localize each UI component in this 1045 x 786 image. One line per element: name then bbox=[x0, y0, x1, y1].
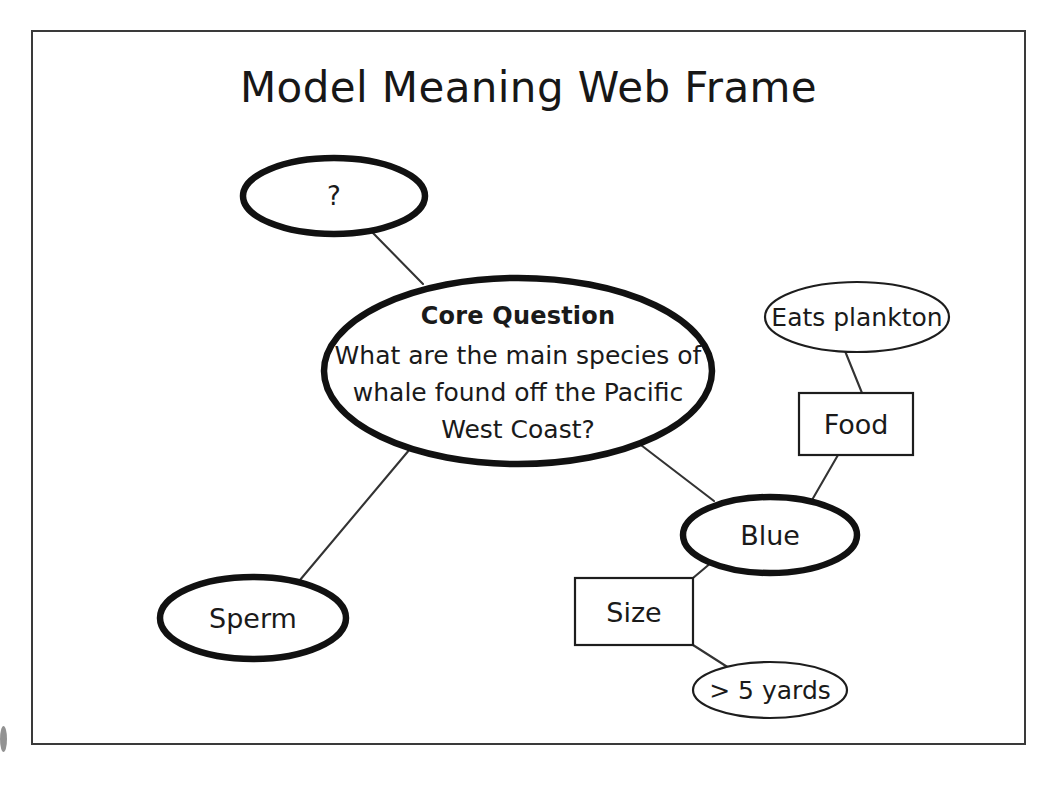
node-food[interactable]: Food bbox=[799, 393, 913, 455]
core-question-line-2: whale found off the Pacific bbox=[353, 378, 683, 407]
edge-core-question-to-blue bbox=[637, 442, 714, 501]
node-size[interactable]: Size bbox=[575, 578, 693, 645]
node-five-yards[interactable]: > 5 yards bbox=[693, 662, 847, 718]
edge-eats-plankton-to-food bbox=[845, 351, 862, 393]
concept-map-diagram: ? Core Question What are the main specie… bbox=[0, 0, 1045, 786]
edge-size-to-five-yards bbox=[693, 645, 729, 668]
eats-plankton-label: Eats plankton bbox=[771, 303, 942, 332]
edge-core-question-to-sperm bbox=[300, 449, 410, 580]
node-core-question[interactable]: Core Question What are the main species … bbox=[324, 278, 712, 464]
page-root: Model Meaning Web Frame ? Core Question … bbox=[0, 0, 1045, 786]
core-question-line-3: West Coast? bbox=[441, 415, 595, 444]
core-question-heading: Core Question bbox=[421, 302, 616, 330]
core-question-line-1: What are the main species of bbox=[335, 341, 703, 370]
node-unknown[interactable]: ? bbox=[243, 158, 425, 234]
five-yards-label: > 5 yards bbox=[709, 676, 831, 705]
unknown-label: ? bbox=[327, 181, 341, 211]
node-eats-plankton[interactable]: Eats plankton bbox=[765, 282, 949, 352]
edge-food-to-blue bbox=[812, 455, 838, 500]
edge-unknown-to-core-question bbox=[372, 232, 423, 284]
blue-label: Blue bbox=[740, 520, 800, 551]
node-blue[interactable]: Blue bbox=[683, 497, 857, 573]
node-sperm[interactable]: Sperm bbox=[160, 577, 346, 659]
sperm-label: Sperm bbox=[209, 603, 297, 634]
size-label: Size bbox=[606, 597, 661, 628]
food-label: Food bbox=[824, 409, 889, 440]
